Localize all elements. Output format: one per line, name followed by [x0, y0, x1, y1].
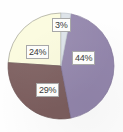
pie-chart: 3% 44% 29% 24%	[0, 0, 123, 132]
pie-label-24: 24%	[26, 45, 49, 59]
pie-label-3: 3%	[52, 18, 71, 32]
pie-label-29: 29%	[36, 83, 59, 97]
pie-label-44: 44%	[72, 51, 95, 65]
